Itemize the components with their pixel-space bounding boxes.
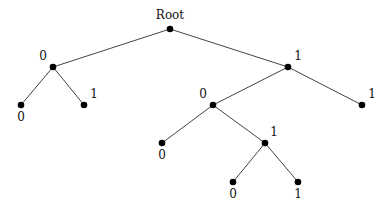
tree-edge-n101-n1011	[265, 143, 298, 182]
tree-nodes	[18, 26, 366, 186]
node-label-n00: 0	[17, 110, 25, 124]
tree-edge-n101-n1010	[233, 143, 265, 182]
tree-labels: Root0011010101	[17, 8, 376, 201]
tree-node-n10	[210, 102, 217, 109]
tree-node-n1	[285, 64, 292, 71]
tree-edge-n10-n101	[213, 105, 265, 143]
tree-edge-n0-n01	[53, 67, 84, 105]
node-label-n1011: 1	[294, 187, 302, 201]
tree-edge-n1-n11	[288, 67, 362, 105]
tree-node-n101	[262, 140, 269, 147]
node-label-n0: 0	[39, 49, 47, 63]
tree-edge-n1-n10	[213, 67, 288, 105]
tree-node-n1011	[295, 179, 302, 186]
tree-diagram: Root0011010101	[0, 0, 388, 208]
tree-edges	[21, 29, 362, 182]
node-label-n11: 1	[368, 87, 376, 101]
node-label-n01: 1	[90, 87, 98, 101]
node-label-n101: 1	[270, 125, 278, 139]
node-label-root: Root	[156, 8, 184, 22]
tree-edge-n10-n100	[162, 105, 213, 143]
tree-node-n00	[18, 102, 25, 109]
tree-edge-n0-n00	[21, 67, 53, 105]
tree-node-n11	[359, 102, 366, 109]
tree-node-n1010	[230, 179, 237, 186]
tree-node-n0	[50, 64, 57, 71]
node-label-n1010: 0	[229, 187, 237, 201]
node-label-n10: 0	[199, 87, 207, 101]
tree-node-n01	[81, 102, 88, 109]
tree-node-n100	[159, 140, 166, 147]
tree-edge-root-n1	[170, 29, 288, 67]
node-label-n1: 1	[294, 49, 302, 63]
node-label-n100: 0	[158, 148, 166, 162]
tree-edge-root-n0	[53, 29, 170, 67]
tree-node-root	[167, 26, 174, 33]
